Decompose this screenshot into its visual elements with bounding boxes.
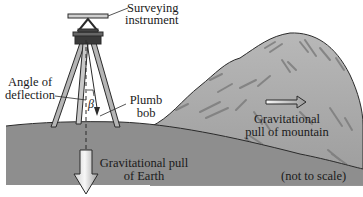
instrument-label-line2: instrument: [125, 14, 178, 27]
surveying-instrument: [68, 14, 108, 32]
scale-note: (not to scale): [281, 170, 346, 183]
beta-symbol: β: [88, 98, 94, 111]
plumb-bob-label: Plumb bob: [126, 94, 166, 120]
earth-pull-line2: of Earth: [98, 170, 190, 183]
mountain-pull-line2: pull of mountain: [242, 126, 332, 139]
mountain-pull-label: Gravitational pull of mountain: [242, 113, 332, 139]
angle-label: Angle of deflection: [4, 76, 56, 102]
earth-pull-label: Gravitational pull of Earth: [98, 157, 190, 183]
plumb-label-line2: bob: [126, 107, 166, 120]
angle-label-line2: deflection: [4, 89, 56, 102]
plumb-bob: [94, 107, 100, 116]
instrument-label-2: instrument: [125, 14, 178, 27]
angle-marker: [87, 90, 94, 96]
